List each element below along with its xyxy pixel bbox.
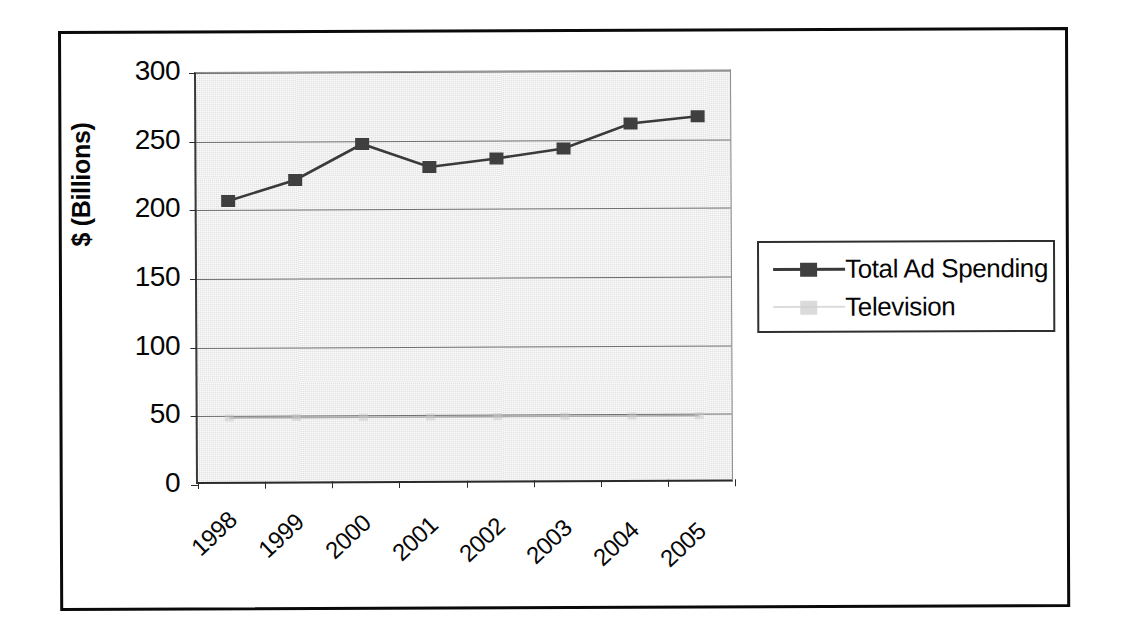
legend: Total Ad Spending Television — [757, 240, 1055, 333]
data-point-marker — [288, 174, 302, 186]
x-tick-label: 2004 — [588, 516, 645, 572]
x-tick-label: 2005 — [655, 517, 712, 573]
x-tick-label: 1998 — [185, 506, 242, 562]
data-point-marker — [624, 117, 638, 129]
legend-marker-television — [773, 297, 845, 317]
data-point-marker — [221, 195, 235, 207]
data-point-marker — [426, 413, 435, 420]
data-point-marker — [355, 138, 369, 150]
y-tick-label: 50 — [0, 400, 180, 428]
x-tick-label: 1999 — [252, 508, 309, 564]
y-tick-label: 250 — [0, 126, 180, 154]
y-tick-label: 200 — [0, 194, 180, 222]
data-point-marker — [292, 414, 301, 421]
y-tick-label: 150 — [0, 263, 180, 291]
legend-item-1[interactable]: Television — [773, 288, 955, 325]
legend-marker-total-ad-spending — [773, 259, 845, 279]
y-tick — [191, 485, 198, 486]
data-point-marker — [422, 161, 436, 173]
y-tick-label: 100 — [0, 332, 180, 360]
data-point-marker — [560, 413, 569, 420]
data-point-marker — [225, 414, 234, 421]
x-tick-label: 2000 — [320, 509, 377, 565]
data-point-marker — [557, 142, 571, 154]
data-point-marker — [489, 152, 503, 164]
x-tick-label: 2002 — [454, 512, 511, 568]
legend-label-0: Total Ad Spending — [845, 252, 1048, 284]
line-chart: $ (Billions) 050100150200250300 19981999… — [0, 0, 1123, 642]
x-tick — [735, 479, 736, 486]
data-point-marker — [627, 412, 636, 419]
data-point-marker — [695, 412, 704, 419]
series-layer — [194, 69, 733, 484]
legend-item-0[interactable]: Total Ad Spending — [773, 250, 1048, 287]
data-point-marker — [493, 413, 502, 420]
series-total-ad-spending — [221, 110, 705, 207]
x-tick-label: 2001 — [387, 511, 444, 567]
data-point-marker — [691, 110, 705, 122]
series-television — [225, 412, 704, 421]
y-tick-label: 0 — [0, 469, 180, 497]
data-point-marker — [359, 414, 368, 421]
y-tick-label: 300 — [0, 57, 180, 85]
x-tick-label: 2003 — [521, 514, 578, 570]
legend-label-1: Television — [845, 291, 955, 322]
